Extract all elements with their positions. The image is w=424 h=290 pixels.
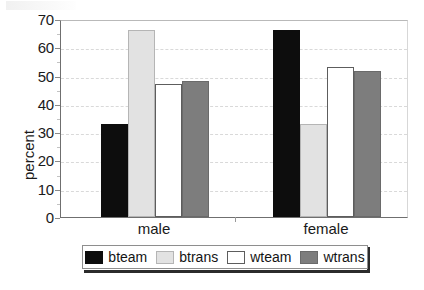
legend-swatch-wteam-icon — [227, 251, 245, 264]
legend-item-bteam[interactable]: bteam — [85, 250, 147, 264]
y-axis-tick — [55, 105, 60, 106]
legend-label: wteam — [250, 250, 291, 264]
bar-female-wtrans — [354, 71, 381, 217]
y-axis-minor-tick — [57, 34, 60, 35]
y-axis-minor-tick — [57, 147, 60, 148]
bar-male-wteam — [155, 84, 182, 217]
y-axis-tick-label: 60 — [14, 40, 54, 55]
y-axis-tick-label: 0 — [14, 210, 54, 225]
legend-label: wtrans — [323, 250, 364, 264]
legend-item-wteam[interactable]: wteam — [227, 250, 291, 264]
y-axis-title: percent — [20, 130, 37, 180]
bar-female-wteam — [327, 67, 354, 217]
x-axis-label-male: male — [104, 220, 204, 237]
legend-swatch-bteam-icon — [85, 251, 103, 264]
bar-female-bteam — [273, 30, 300, 217]
chart-legend: bteambtranswteamwtrans — [82, 245, 368, 269]
figure-caption — [44, 279, 344, 288]
bar-male-wtrans — [182, 81, 209, 217]
legend-label: btrans — [179, 250, 218, 264]
y-axis-tick-label: 10 — [14, 182, 54, 197]
y-axis-tick — [55, 161, 60, 162]
y-axis-tick — [55, 218, 60, 219]
legend-item-btrans[interactable]: btrans — [156, 250, 218, 264]
y-axis-minor-tick — [57, 62, 60, 63]
y-axis-minor-tick — [57, 119, 60, 120]
y-axis-minor-tick — [57, 91, 60, 92]
y-axis-tick — [55, 48, 60, 49]
y-axis-minor-tick — [57, 204, 60, 205]
y-axis-tick-label: 70 — [14, 12, 54, 27]
y-axis-tick — [55, 133, 60, 134]
y-axis-tick — [55, 20, 60, 21]
top-scan-artifact — [6, 1, 76, 10]
bar-male-btrans — [128, 30, 155, 217]
legend-swatch-wtrans-icon — [300, 251, 318, 264]
y-axis-tick-label: 40 — [14, 97, 54, 112]
y-axis-tick-label: 50 — [14, 69, 54, 84]
legend-swatch-btrans-icon — [156, 251, 174, 264]
y-axis-tick — [55, 190, 60, 191]
bar-male-bteam — [101, 124, 128, 217]
bar-female-btrans — [300, 124, 327, 217]
plot-area — [60, 20, 408, 218]
x-axis-label-female: female — [276, 220, 376, 237]
legend-item-wtrans[interactable]: wtrans — [300, 250, 364, 264]
y-axis-minor-tick — [57, 176, 60, 177]
gridline — [61, 49, 407, 50]
x-axis-category-separator — [235, 217, 236, 222]
plot-wrapper: 706050403020100 percent malefemale — [60, 20, 408, 218]
bar-chart: 706050403020100 percent malefemale bteam… — [0, 0, 424, 290]
legend-label: bteam — [108, 250, 147, 264]
legend-shadow-bottom — [84, 270, 370, 273]
y-axis-tick — [55, 77, 60, 78]
